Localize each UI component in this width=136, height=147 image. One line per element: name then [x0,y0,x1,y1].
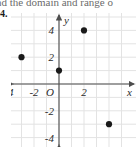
coordinate-plane-graph: -4-2242-2-4Oxy [11,13,136,147]
problem-number-label: 4. [0,9,8,19]
x-tick-label: 2 [81,86,87,98]
cropped-instruction-text: nd the domain and range o [0,0,136,9]
data-point [18,54,24,60]
y-axis-label: y [63,14,69,26]
axes [13,15,134,145]
data-points [18,27,112,127]
x-tick-label: -2 [29,86,39,98]
x-tick-label: -4 [11,86,14,98]
grid-lines [11,13,136,147]
graph-svg: -4-2242-2-4Oxy [11,13,136,147]
y-tick-label: 2 [49,51,55,63]
data-point [106,121,112,127]
y-tick-label: -2 [45,105,55,117]
y-tick-label: -4 [45,132,55,144]
data-point [81,27,87,33]
data-point [56,68,62,74]
y-tick-label: 4 [49,24,55,36]
x-axis-label: x [126,86,132,98]
worksheet-figure: nd the domain and range o 4. -4-2242-2-4… [0,0,136,147]
origin-label: O [46,86,54,98]
